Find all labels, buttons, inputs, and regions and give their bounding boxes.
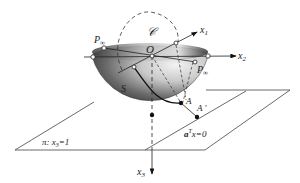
equator-right-point bbox=[206, 54, 210, 58]
equator-left-point bbox=[91, 55, 95, 59]
label-hyperplane: aTx=0 bbox=[184, 128, 207, 139]
label-origin: O bbox=[146, 43, 154, 55]
label-circle-c: 𝒞 bbox=[147, 25, 159, 39]
hyperplane-line bbox=[145, 90, 290, 150]
label-x1: x1 bbox=[199, 24, 208, 37]
label-point-a-prime: A ' bbox=[196, 103, 208, 113]
hemisphere-projection-diagram: 𝒞 O x1 x2 x3 P∞ P∞ S A A ' π: x3=1 aTx=0 bbox=[0, 0, 300, 183]
curve-start-point bbox=[132, 65, 136, 69]
label-plane-pi: π: x3=1 bbox=[42, 137, 69, 148]
label-x2: x2 bbox=[237, 50, 246, 63]
sphere-bottom-point bbox=[150, 113, 154, 117]
label-surface-s: S bbox=[121, 83, 126, 94]
c-intersect-point bbox=[174, 41, 178, 45]
point-a-prime bbox=[195, 115, 199, 119]
label-x3: x3 bbox=[136, 166, 145, 179]
label-p-inf-left: P∞ bbox=[93, 34, 105, 47]
point-a bbox=[179, 101, 183, 105]
label-point-a: A bbox=[185, 96, 192, 106]
